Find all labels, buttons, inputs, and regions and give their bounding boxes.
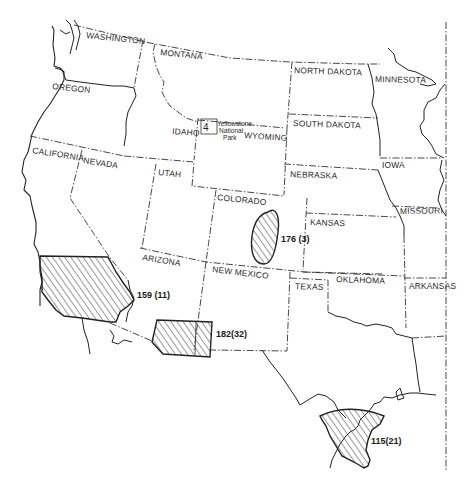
state-label-utah: UTAH: [158, 167, 182, 179]
ar-la-border: [412, 336, 446, 338]
id-wy-border: [194, 118, 198, 160]
map: 4 WASHINGTONMONTANAOREGONIDAHOWYOMINGNOR…: [0, 0, 464, 488]
red-river: [328, 312, 396, 334]
state-label-north-dakota: NORTH DAKOTA: [294, 65, 363, 77]
state-label-missouri: MISSOURI: [400, 205, 443, 216]
region-label-south-texas: 115(21): [371, 436, 402, 446]
sabine-river: [396, 334, 420, 392]
ne-ia-border: [378, 170, 404, 236]
canada-border: [74, 25, 380, 64]
rio-grande: [262, 350, 346, 418]
az-mexico-border: [110, 323, 152, 341]
state-label-arkansas: ARKANSAS: [409, 281, 456, 291]
state-label-arizona: ARIZONA: [142, 252, 182, 268]
wisconsin-shore: [420, 84, 445, 158]
baja-coast: [82, 318, 90, 354]
mt-dakotas-border: [287, 62, 292, 128]
state-label-texas: TEXAS: [295, 281, 324, 292]
state-label-iowa: IOWA: [382, 160, 405, 170]
state-label-nevada: NEVADA: [83, 155, 119, 170]
state-label-montana: MONTANA: [160, 47, 204, 61]
park-label-line-3: Park: [223, 134, 237, 141]
state-label-kansas: KANSAS: [310, 217, 346, 228]
state-label-oklahoma: OKLAHOMA: [336, 274, 386, 286]
state-labels: WASHINGTONMONTANAOREGONIDAHOWYOMINGNORTH…: [32, 30, 457, 292]
park-label-line-2: National: [219, 127, 244, 134]
or-id-border: [124, 88, 136, 146]
state-label-minnesota: MINNESOTA: [375, 74, 426, 85]
region-southern-california: [40, 256, 134, 322]
region-label-southern-california: 159 (11): [137, 290, 170, 300]
mo-ok-border: [404, 236, 406, 328]
gulf-of-california-coast: [110, 330, 132, 344]
state-label-idaho: IDAHO: [172, 126, 200, 138]
region-southern-arizona-new-mexico: [152, 320, 212, 357]
state-label-new-mexico: NEW MEXICO: [212, 264, 270, 281]
ut-co-border: [206, 190, 216, 262]
state-label-colorado: COLORADO: [217, 192, 268, 207]
state-label-washington: WASHINGTON: [86, 30, 146, 46]
region-label-southern-arizona-new-mexico: 182(32): [216, 329, 247, 339]
puget-sound: [60, 20, 80, 54]
wa-id-border: [134, 40, 143, 88]
state-label-south-dakota: SOUTH DAKOTA: [293, 118, 361, 130]
state-label-california: CALIFORNIA: [32, 145, 85, 163]
nv-ut-border: [142, 164, 156, 248]
region-label-colorado-plains: 176 (3): [281, 234, 310, 244]
state-label-wyoming: WYOMING: [244, 130, 288, 143]
region-colorado-plains: [252, 210, 279, 264]
id-ut-border: [124, 156, 284, 196]
park-label-line-1: Yellowstone: [217, 120, 252, 127]
yellowstone-icon: 4: [203, 122, 209, 133]
state-label-nebraska: NEBRASKA: [290, 169, 338, 181]
nm-tx-border: [211, 272, 290, 351]
